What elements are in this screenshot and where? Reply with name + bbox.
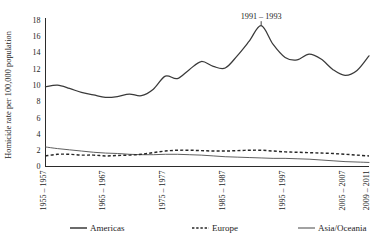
homicide-rate-line-chart: Homicide rate per 100,000 population 024… [0, 0, 387, 240]
y-tick-labels: 024681012141618 [33, 16, 41, 172]
chart-canvas: Homicide rate per 100,000 population 024… [0, 0, 387, 240]
y-tick-label: 6 [37, 114, 41, 123]
y-tick-label: 10 [33, 81, 41, 90]
x-tick-labels: 1955 – 19571965 – 19671975 – 19771985 – … [39, 171, 372, 211]
y-axis-label: Homicide rate per 100,000 population [4, 30, 13, 158]
legend-label-asia-oceania: Asia/Oceania [318, 223, 366, 233]
legend-label-europe: Europe [212, 223, 238, 233]
x-tick-label: 2009 – 2011 [362, 171, 371, 211]
series-line-americas [46, 26, 370, 98]
y-tick-label: 12 [33, 65, 41, 74]
y-tick-label: 0 [37, 162, 41, 171]
y-tick-label: 16 [33, 32, 41, 41]
peak-annotation: 1991 – 1993 [241, 12, 282, 26]
y-tick-label: 18 [33, 16, 41, 25]
chart-legend: AmericasEuropeAsia/Oceania [70, 223, 366, 233]
y-tick-label: 14 [33, 48, 41, 57]
x-tick-label: 1995 – 1997 [278, 171, 287, 211]
legend-label-americas: Americas [90, 223, 125, 233]
x-tick-label: 1955 – 1957 [39, 171, 48, 211]
x-tick-label: 1965 – 1967 [98, 171, 107, 211]
y-tick-label: 2 [37, 146, 41, 155]
x-tick-label: 2005 – 2007 [338, 171, 347, 211]
x-tick-label: 1975 – 1977 [158, 171, 167, 211]
y-tick-label: 4 [37, 130, 41, 139]
peak-annotation-text: 1991 – 1993 [241, 12, 282, 21]
y-tick-label: 8 [37, 97, 41, 106]
x-tick-label: 1985 – 1987 [218, 171, 227, 211]
y-axis-label-text: Homicide rate per 100,000 population [4, 30, 13, 158]
